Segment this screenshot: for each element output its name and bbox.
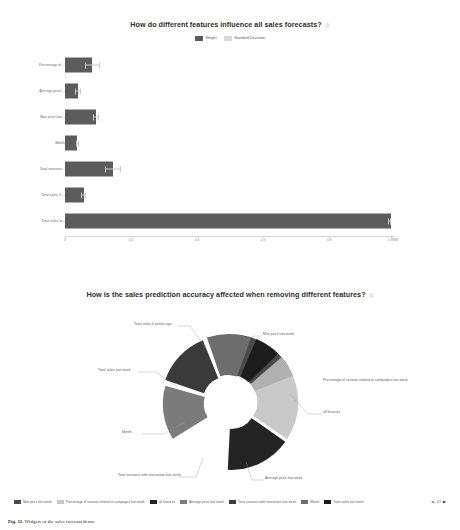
- bar-error-whisker: [105, 169, 121, 170]
- bar-chart-plot-area: Percentage of ... Average price ... Max …: [0, 52, 460, 252]
- bar-weight[interactable]: [65, 214, 391, 229]
- legend-item-max-price-last-week[interactable]: Max price last week: [14, 500, 52, 504]
- donut-label-max-price-last-week: Max price last week: [263, 332, 294, 336]
- legend-item-month[interactable]: Month: [301, 500, 319, 504]
- x-axis-tick-label: 0.2: [129, 238, 134, 242]
- figure-caption-prefix: Fig. 11.: [8, 519, 23, 524]
- table-row[interactable]: Month: [0, 130, 460, 156]
- bar-error-whisker: [85, 65, 100, 66]
- donut-label-total-sales-last-week: Total sales last week: [98, 368, 131, 372]
- donut-svg: [0, 294, 460, 499]
- bar-error-whisker: [75, 91, 82, 92]
- legend-label: Average price last week: [189, 500, 224, 504]
- legend-label: all features: [159, 500, 175, 504]
- donut-label-percentage-session: Percentage of session related to campaig…: [323, 378, 408, 382]
- legend-swatch-standard-deviation: [224, 36, 232, 41]
- table-row[interactable]: Max price last...: [0, 104, 460, 130]
- legend-page-indicator: 1/2: [436, 500, 441, 504]
- legend-swatch: [14, 500, 21, 504]
- bar-category-label: Total sessions...: [40, 167, 65, 171]
- donut-label-total-sales-4-weeks-ago: Total sales 4 weeks ago: [134, 322, 172, 326]
- legend-swatch: [301, 500, 308, 504]
- bar-error-whisker: [81, 195, 86, 196]
- bar-chart-panel: How do different features influence all …: [0, 0, 460, 258]
- table-row[interactable]: Total sessions...: [0, 156, 460, 182]
- legend-swatch: [229, 500, 236, 504]
- legend-item-standard-deviation[interactable]: Standard Deviation: [224, 36, 265, 41]
- chevron-left-icon[interactable]: ◀: [431, 500, 434, 504]
- table-row[interactable]: Total sales la...: [0, 208, 460, 234]
- legend-label-weight: Weight: [205, 36, 216, 40]
- donut-slice-total-sessions-interaction[interactable]: [165, 340, 218, 393]
- legend-swatch: [324, 500, 331, 504]
- legend-swatch-weight: [195, 36, 203, 41]
- legend-label-standard-deviation: Standard Deviation: [234, 36, 265, 40]
- x-axis-tick-label: 0: [64, 238, 66, 242]
- chevron-right-icon[interactable]: ▶: [443, 500, 446, 504]
- donut-label-average-price-last-week: Average price last week: [265, 476, 303, 480]
- legend-label: Total sessions with interaction last wee…: [238, 500, 296, 504]
- bar-category-label: Total sales 4 ...: [41, 193, 65, 197]
- bar-weight[interactable]: [65, 110, 96, 125]
- donut-label-all-features: all features: [323, 410, 340, 414]
- figure-caption-text: Widgets of the sales forecast demo: [25, 519, 95, 524]
- donut-label-month: Month: [122, 430, 132, 434]
- table-row[interactable]: Percentage of ...: [0, 52, 460, 78]
- bar-chart-title-text: How do different features influence all …: [130, 20, 321, 29]
- bar-category-label: Month: [55, 141, 65, 145]
- table-row[interactable]: Average price ...: [0, 78, 460, 104]
- figure-caption: Fig. 11. Widgets of the sales forecast d…: [8, 518, 448, 525]
- bar-category-label: Average price ...: [39, 89, 65, 93]
- x-axis-tick-label: 0.9888: [388, 238, 398, 242]
- x-axis-line: [65, 236, 395, 237]
- x-axis-tick-label: 0.6: [261, 238, 266, 242]
- legend-swatch: [57, 500, 64, 504]
- donut-chart-legend: Max price last week Percentage of sessio…: [14, 500, 446, 504]
- table-row[interactable]: Total sales 4 ...: [0, 182, 460, 208]
- legend-item-all-features[interactable]: all features: [150, 500, 175, 504]
- x-axis-tick-label: 0.8: [327, 238, 332, 242]
- donut-label-total-sessions-interaction: Total sessions with interaction last wee…: [118, 473, 181, 477]
- bar-error-whisker: [388, 221, 391, 222]
- bar-error-whisker: [93, 117, 99, 118]
- legend-pagination: ◀ 1/2 ▶: [431, 500, 446, 504]
- x-axis-tick-label: 0.4: [195, 238, 200, 242]
- legend-item-total-sales-last-week[interactable]: Total sales last week: [324, 500, 363, 504]
- bar-category-label: Total sales la...: [42, 219, 66, 223]
- legend-label: Month: [310, 500, 319, 504]
- legend-item-average-price-last-week[interactable]: Average price last week: [180, 500, 224, 504]
- legend-swatch: [150, 500, 157, 504]
- bar-category-label: Percentage of ...: [39, 63, 65, 67]
- bar-category-label: Max price last...: [40, 115, 65, 119]
- help-circle-icon[interactable]: [325, 23, 330, 28]
- bar-chart-legend: Weight Standard Deviation: [0, 36, 460, 41]
- legend-item-percentage-session-campaigns[interactable]: Percentage of session related to campaig…: [57, 500, 145, 504]
- bar-error-whisker: [76, 143, 79, 144]
- donut-chart-panel: How is the sales prediction accuracy aff…: [0, 272, 460, 530]
- legend-item-total-sessions-interaction[interactable]: Total sessions with interaction last wee…: [229, 500, 296, 504]
- legend-item-weight[interactable]: Weight: [195, 36, 217, 41]
- donut-chart-plot-area: Max price last week Percentage of sessio…: [0, 294, 460, 499]
- legend-swatch: [180, 500, 187, 504]
- legend-label: Total sales last week: [333, 500, 363, 504]
- legend-label: Max price last week: [23, 500, 52, 504]
- bar-chart-title: How do different features influence all …: [0, 20, 460, 30]
- legend-label: Percentage of session related to campaig…: [66, 500, 145, 504]
